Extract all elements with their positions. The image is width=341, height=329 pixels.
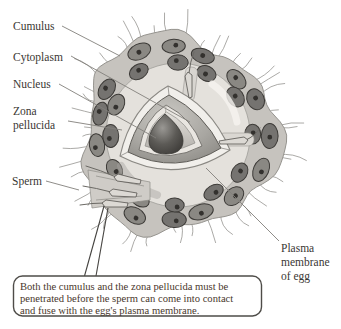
label-sperm: Sperm <box>12 175 42 188</box>
label-plasma-line1: Plasma <box>281 242 314 254</box>
egg-fertilization-diagram: Cumulus Cytoplasm Nucleus Zona pellucida… <box>0 0 341 329</box>
caption-pointer-line-right <box>96 208 108 276</box>
corona-filament <box>75 59 98 76</box>
caption-line-2: penetrated before the sperm can come int… <box>20 293 233 304</box>
label-cytoplasm: Cytoplasm <box>13 51 63 64</box>
caption-pointer-line-left <box>85 206 105 276</box>
cumulus-cell <box>168 55 189 70</box>
label-zona-line1: Zona <box>13 105 37 117</box>
label-nucleus: Nucleus <box>13 78 51 90</box>
cumulus-cell <box>165 197 185 212</box>
leader-line-cumulus <box>62 26 120 56</box>
label-cumulus: Cumulus <box>13 20 55 32</box>
caption-line-1: Both the cumulus and the zona pellucida … <box>20 281 229 292</box>
corona-filament <box>186 10 188 37</box>
cumulus-cell <box>261 124 278 149</box>
caption-line-3: and fuse with the egg's plasma membrane. <box>20 305 199 316</box>
label-plasma-line2: membrane <box>281 256 330 268</box>
label-plasma-line3: of egg <box>281 270 310 283</box>
leader-line-sperm <box>46 181 79 190</box>
label-zona-line2: pellucida <box>13 119 55 132</box>
